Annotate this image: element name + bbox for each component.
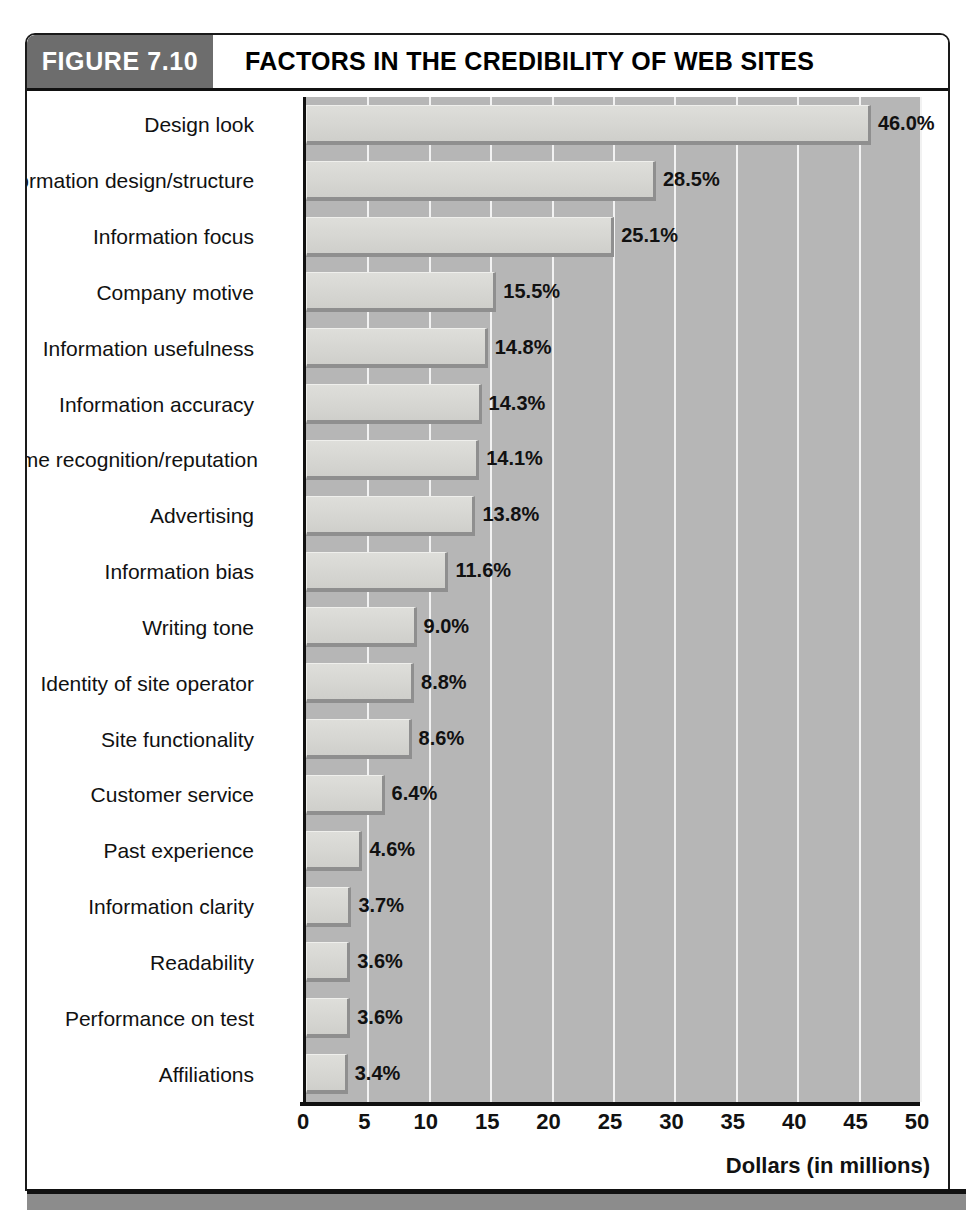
bar-container: 9.0%	[306, 607, 417, 647]
bar-row[interactable]: Advertising13.8%	[27, 488, 948, 544]
bar[interactable]: 3.6%	[306, 942, 350, 982]
bar[interactable]: 8.8%	[306, 663, 414, 703]
bar-container: 3.4%	[306, 1054, 348, 1094]
bar-value-label: 14.8%	[495, 335, 552, 358]
bar-row[interactable]: Information accuracy14.3%	[27, 376, 948, 432]
x-tick-label: 20	[536, 1109, 560, 1135]
bar-value-label: 9.0%	[424, 614, 470, 637]
bar[interactable]: 8.6%	[306, 719, 412, 759]
bar-value-label: 3.4%	[355, 1061, 401, 1084]
bar-row[interactable]: Readability3.6%	[27, 935, 948, 991]
category-label: Information usefulness	[25, 338, 254, 359]
bar-container: 4.6%	[306, 831, 362, 871]
bar-value-label: 3.7%	[358, 894, 404, 917]
bar-container: 46.0%	[306, 105, 871, 145]
bar-row[interactable]: Customer service6.4%	[27, 767, 948, 823]
bar[interactable]: 9.0%	[306, 607, 417, 647]
bar-row[interactable]: Information focus25.1%	[27, 209, 948, 265]
x-tick-label: 45	[843, 1109, 867, 1135]
bar-row[interactable]: Site functionality8.6%	[27, 711, 948, 767]
bar-row[interactable]: Identity of site operator8.8%	[27, 655, 948, 711]
bar-container: 25.1%	[306, 217, 614, 257]
bar[interactable]: 28.5%	[306, 161, 656, 201]
x-tick-label: 30	[659, 1109, 683, 1135]
bar-container: 14.8%	[306, 328, 488, 368]
bar-row[interactable]: Name recognition/reputation14.1%	[27, 432, 948, 488]
bar-row[interactable]: Performance on test3.6%	[27, 990, 948, 1046]
bar-container: 15.5%	[306, 272, 496, 312]
x-tick-label: 15	[475, 1109, 499, 1135]
figure-frame: FIGURE 7.10 FACTORS IN THE CREDIBILITY O…	[25, 33, 950, 1191]
x-tick-label: 40	[782, 1109, 806, 1135]
category-label: Information accuracy	[25, 394, 254, 415]
bar[interactable]: 46.0%	[306, 105, 871, 145]
bar-row[interactable]: Information clarity3.7%	[27, 879, 948, 935]
bar-container: 8.6%	[306, 719, 412, 759]
bar-value-label: 3.6%	[357, 949, 403, 972]
bar[interactable]: 3.7%	[306, 887, 351, 927]
bar-container: 14.1%	[306, 440, 479, 480]
bar-row[interactable]: Information usefulness14.8%	[27, 320, 948, 376]
category-label: Writing tone	[25, 617, 254, 638]
bar-row[interactable]: Information design/structure28.5%	[27, 153, 948, 209]
bar[interactable]: 14.3%	[306, 384, 482, 424]
x-tick-label: 0	[297, 1109, 309, 1135]
category-label: Customer service	[25, 784, 254, 805]
bar-container: 11.6%	[306, 552, 448, 592]
bar-container: 3.6%	[306, 998, 350, 1038]
bar-value-label: 28.5%	[663, 168, 720, 191]
category-label: Information design/structure	[25, 170, 254, 191]
bar-container: 13.8%	[306, 496, 475, 536]
category-label: Information focus	[25, 226, 254, 247]
category-label: Information clarity	[25, 896, 254, 917]
bar-container: 8.8%	[306, 663, 414, 703]
bar-row[interactable]: Design look46.0%	[27, 97, 948, 153]
bar[interactable]: 13.8%	[306, 496, 475, 536]
category-label: Affiliations	[25, 1064, 254, 1085]
footer-band	[27, 1194, 966, 1210]
bar-container: 14.3%	[306, 384, 482, 424]
bar-value-label: 3.6%	[357, 1005, 403, 1028]
category-label: Performance on test	[25, 1008, 254, 1029]
x-axis-line	[300, 1102, 920, 1106]
x-tick-label: 35	[721, 1109, 745, 1135]
category-label: Information bias	[25, 561, 254, 582]
category-label: Company motive	[25, 282, 254, 303]
category-label: Readability	[25, 952, 254, 973]
bar[interactable]: 4.6%	[306, 831, 362, 871]
bar[interactable]: 11.6%	[306, 552, 448, 592]
bar[interactable]: 15.5%	[306, 272, 496, 312]
category-label: Identity of site operator	[25, 673, 254, 694]
bar-value-label: 8.8%	[421, 670, 467, 693]
x-axis-ticks: 05101520253035404550	[303, 1109, 917, 1143]
bar-row[interactable]: Affiliations3.4%	[27, 1046, 948, 1102]
x-tick-label: 5	[358, 1109, 370, 1135]
bar-row[interactable]: Past experience4.6%	[27, 823, 948, 879]
bar-container: 3.6%	[306, 942, 350, 982]
x-tick-label: 25	[598, 1109, 622, 1135]
bar[interactable]: 3.4%	[306, 1054, 348, 1094]
bar-container: 6.4%	[306, 775, 385, 815]
bar-container: 28.5%	[306, 161, 656, 201]
bar-row[interactable]: Writing tone9.0%	[27, 600, 948, 656]
bar-value-label: 25.1%	[621, 224, 678, 247]
bar[interactable]: 14.1%	[306, 440, 479, 480]
bar[interactable]: 25.1%	[306, 217, 614, 257]
category-label: Advertising	[25, 505, 254, 526]
bar[interactable]: 3.6%	[306, 998, 350, 1038]
bar-value-label: 11.6%	[455, 559, 511, 582]
bar-value-label: 4.6%	[369, 838, 415, 861]
category-label: Site functionality	[25, 729, 254, 750]
bar-value-label: 6.4%	[392, 782, 438, 805]
bar[interactable]: 6.4%	[306, 775, 385, 815]
bar-rows: Design look46.0%Information design/struc…	[27, 97, 948, 1102]
category-label: Design look	[25, 114, 254, 135]
bar[interactable]: 14.8%	[306, 328, 488, 368]
bar-row[interactable]: Company motive15.5%	[27, 265, 948, 321]
x-tick-label: 50	[905, 1109, 929, 1135]
bar-container: 3.7%	[306, 887, 351, 927]
bar-row[interactable]: Information bias11.6%	[27, 544, 948, 600]
bar-value-label: 13.8%	[482, 503, 539, 526]
figure-number-tag: FIGURE 7.10	[27, 35, 213, 88]
bar-value-label: 15.5%	[503, 279, 560, 302]
